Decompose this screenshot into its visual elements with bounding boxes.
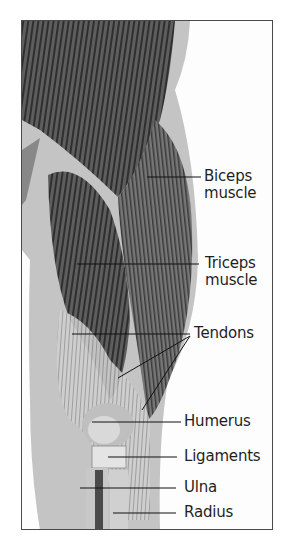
biceps-label: Biceps muscle	[204, 168, 256, 202]
radius-bone	[110, 470, 128, 530]
tendons-label: Tendons	[194, 325, 254, 342]
triceps-label: Triceps muscle	[205, 255, 257, 289]
humerus-label: Humerus	[184, 413, 251, 430]
ligaments-label: Ligaments	[184, 448, 260, 465]
ulna-label: Ulna	[184, 479, 217, 496]
radius-label: Radius	[184, 504, 233, 521]
